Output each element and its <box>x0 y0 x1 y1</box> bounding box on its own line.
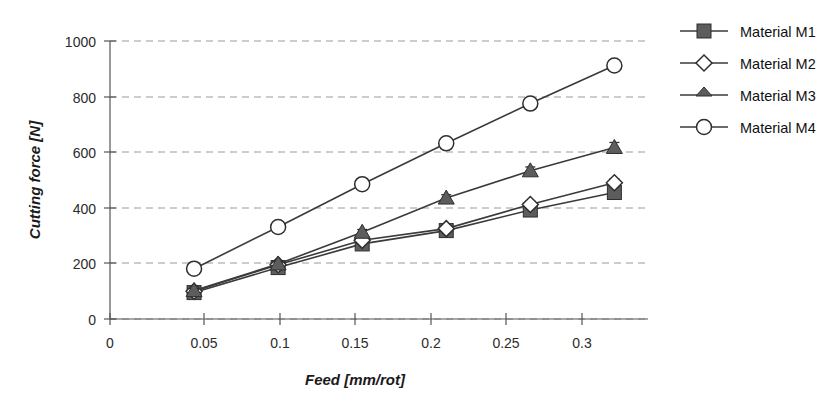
legend-label-m1: Material M1 <box>740 24 816 40</box>
legend-label-m2: Material M2 <box>740 56 816 72</box>
x-tick-label-0.15: 0.15 <box>341 335 368 351</box>
y-tick-label-800: 800 <box>73 90 97 106</box>
y-tick-label-600: 600 <box>73 145 97 161</box>
legend-label-m3: Material M3 <box>740 88 816 104</box>
x-axis-title: Feed [mm/rot] <box>305 371 406 388</box>
legend-label-m4: Material M4 <box>740 120 816 136</box>
x-tick-label-0.1: 0.1 <box>270 335 290 351</box>
y-tick-label-200: 200 <box>73 256 97 272</box>
open-circle-marker <box>607 58 622 73</box>
open-circle-icon <box>697 120 712 135</box>
cutting-force-vs-feed-chart: 1000 800 600 400 200 0 0 0.05 0.1 0.15 0… <box>0 0 838 402</box>
legend-item-material-m4[interactable]: Material M4 <box>680 120 816 137</box>
y-tick-label-400: 400 <box>73 201 97 217</box>
y-axis-title: Cutting force [N] <box>26 120 43 239</box>
open-circle-marker <box>271 219 286 234</box>
y-tick-label-1000: 1000 <box>65 34 96 50</box>
open-circle-marker <box>187 261 202 276</box>
x-tick-label-0.2: 0.2 <box>421 335 441 351</box>
open-circle-marker <box>439 136 454 151</box>
filled-square-icon <box>697 24 711 38</box>
x-tick-label-0.05: 0.05 <box>190 335 217 351</box>
y-tick-label-0: 0 <box>88 312 96 328</box>
open-circle-marker <box>355 177 370 192</box>
x-tick-label-0: 0 <box>106 335 114 351</box>
open-circle-marker <box>523 96 538 111</box>
chart-background <box>0 0 838 402</box>
x-tick-label-0.3: 0.3 <box>572 335 592 351</box>
legend-item-material-m1[interactable]: Material M1 <box>680 24 816 40</box>
x-tick-label-0.25: 0.25 <box>492 335 519 351</box>
